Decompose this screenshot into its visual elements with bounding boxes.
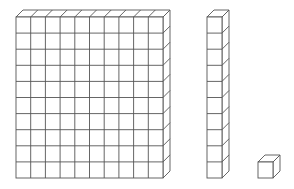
unit-cube-front-face xyxy=(258,162,273,178)
hundred-flat xyxy=(16,10,170,178)
unit-cube xyxy=(258,155,280,178)
blocks-canvas xyxy=(0,0,294,189)
ten-rod xyxy=(207,10,229,178)
base-ten-blocks-diagram: Base-ten blocks xyxy=(0,0,294,189)
